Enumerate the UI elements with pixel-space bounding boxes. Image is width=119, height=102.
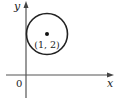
x-axis-label: x bbox=[107, 77, 114, 90]
center-point bbox=[45, 32, 49, 36]
coordinate-diagram: y x 0 (1, 2) bbox=[0, 0, 119, 102]
origin-label: 0 bbox=[16, 78, 22, 89]
y-axis bbox=[24, 1, 29, 98]
x-axis bbox=[6, 73, 114, 78]
center-label: (1, 2) bbox=[34, 39, 60, 50]
y-axis-arrow-icon bbox=[24, 1, 29, 8]
y-axis-label: y bbox=[13, 0, 21, 13]
